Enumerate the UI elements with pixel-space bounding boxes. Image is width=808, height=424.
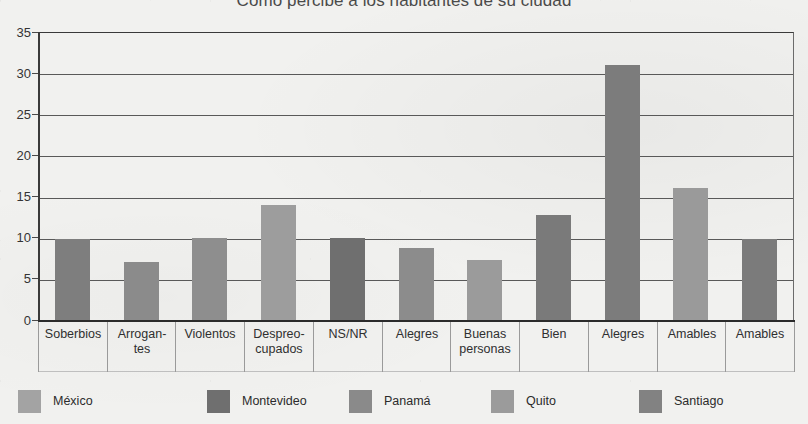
legend-label: Montevideo (242, 394, 307, 408)
legend-item-quito[interactable]: Quito (491, 390, 556, 413)
bar[interactable] (742, 239, 777, 320)
bar[interactable] (192, 238, 227, 320)
x-axis-label-cell: Amables (725, 322, 794, 372)
bar[interactable] (605, 65, 640, 320)
x-axis-label-text: Bien (541, 327, 566, 342)
bar[interactable] (399, 248, 434, 320)
x-axis-label-text: Arrogan- tes (118, 327, 167, 357)
bar[interactable] (124, 262, 159, 320)
bar[interactable] (261, 205, 296, 320)
bar[interactable] (536, 215, 571, 320)
legend-swatch (18, 390, 41, 413)
x-axis-label-text: Soberbios (45, 327, 101, 342)
x-axis-label-text: Amables (736, 327, 785, 342)
legend-label: Santiago (674, 394, 723, 408)
legend-swatch (639, 390, 662, 413)
x-axis-label-cell: Amables (657, 322, 726, 372)
x-axis-label-text: Amables (668, 327, 717, 342)
legend-item-santiago[interactable]: Santiago (639, 390, 723, 413)
bar[interactable] (55, 239, 90, 320)
x-axis-label-cell: Soberbios (38, 322, 107, 372)
bar[interactable] (673, 188, 708, 320)
legend-item-mxico[interactable]: México (18, 390, 93, 413)
x-axis-label-cell: Alegres (588, 322, 657, 372)
x-axis-labels: SoberbiosArrogan- tesViolentosDespreo- c… (38, 322, 795, 372)
bar-chart: Cómo percibe a los habitantes de su ciud… (0, 0, 808, 424)
legend-swatch (349, 390, 372, 413)
y-axis: 05101520253035 (0, 32, 38, 322)
x-axis-label-cell: Bien (519, 322, 588, 372)
x-axis-label-text: Despreo- cupados (253, 327, 304, 357)
bars-layer (38, 32, 794, 320)
legend-label: Panamá (384, 394, 431, 408)
legend-swatch (491, 390, 514, 413)
chart-legend: MéxicoMontevideoPanamáQuitoSantiago (0, 378, 808, 424)
chart-title: Cómo percibe a los habitantes de su ciud… (0, 0, 808, 11)
x-axis-label-text: Alegres (396, 327, 438, 342)
bar[interactable] (467, 260, 502, 320)
legend-item-montevideo[interactable]: Montevideo (207, 390, 307, 413)
x-axis-label-text: Violentos (184, 327, 235, 342)
x-axis-label-text: NS/NR (329, 327, 368, 342)
x-axis-label-cell: NS/NR (313, 322, 382, 372)
x-axis-label-text: Buenas personas (459, 327, 510, 357)
x-axis-label-text: Alegres (602, 327, 644, 342)
legend-label: Quito (526, 394, 556, 408)
bar[interactable] (330, 238, 365, 320)
x-axis-label-cell: Alegres (382, 322, 451, 372)
x-axis-labels-right-edge (794, 322, 795, 372)
x-axis-label-cell: Violentos (175, 322, 244, 372)
legend-label: México (53, 394, 93, 408)
x-axis-label-cell: Arrogan- tes (107, 322, 176, 372)
legend-item-panam[interactable]: Panamá (349, 390, 431, 413)
x-axis-label-cell: Buenas personas (450, 322, 519, 372)
x-axis-label-cell: Despreo- cupados (244, 322, 313, 372)
legend-swatch (207, 390, 230, 413)
